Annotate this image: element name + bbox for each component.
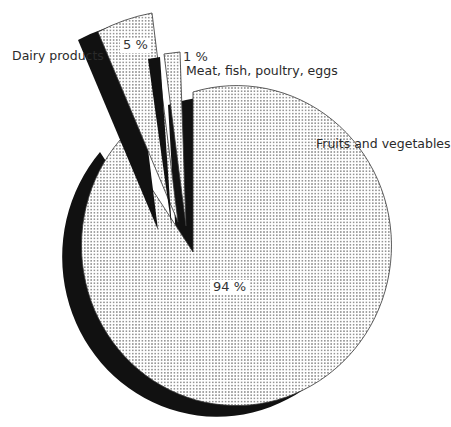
label-dairy-products: Dairy products	[12, 49, 104, 63]
label-meat-fish-poultry-eggs: Meat, fish, poultry, eggs	[186, 64, 338, 78]
value-dairy-products: 5 %	[120, 38, 151, 53]
value-fruits-and-vegetables: 94 %	[210, 280, 249, 295]
label-fruits-and-vegetables: Fruits and vegetables	[316, 137, 451, 151]
